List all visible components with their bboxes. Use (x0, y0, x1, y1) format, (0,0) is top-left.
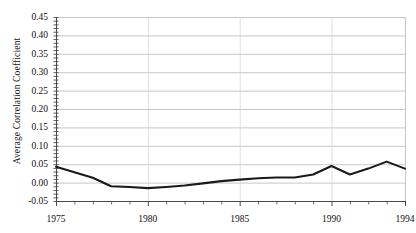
data-series-line (56, 162, 405, 189)
data-line (56, 162, 405, 189)
plot-area (0, 0, 416, 233)
chart-container: Average Correlation Coefficient 0.450.40… (0, 0, 416, 233)
